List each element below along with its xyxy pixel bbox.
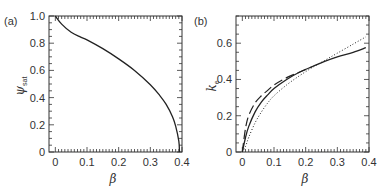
x-tick-label: 0.4 [174,156,189,168]
y-tick-label: 0.4 [30,92,45,104]
panel-a-tick-labels: 00.10.20.30.400.20.40.60.81.0 [30,10,190,168]
svg-text:ψsat: ψsat [13,77,28,96]
panel-a-frame [49,16,182,152]
y-tick-label: 0.6 [30,64,45,76]
panel-a-label: (a) [4,15,17,27]
y-tick-label: 0.2 [30,119,45,131]
panel-b-series [242,37,366,152]
svg-text:ke: ke [205,80,220,91]
y-tick-label: 0 [39,146,45,158]
series-solid-line [242,48,366,152]
y-label-sub: sat [21,77,28,86]
y-tick-label: 0.8 [30,37,45,49]
panel-b-ticks [236,16,369,152]
series-dashed-line [242,67,312,152]
panel-b-tick-labels: 00.10.20.30.400.20.40.6 [217,37,377,168]
panel-a-ticks [49,16,182,152]
panel-a-series [55,16,179,152]
series-sat-line [55,16,179,152]
y-tick-label: 0.2 [217,110,232,122]
y-label-sub: e [213,80,220,84]
x-tick-label: 0 [239,156,245,168]
x-tick-label: 0.4 [361,156,376,168]
panel-b-y-axis-label: ke [205,80,220,91]
y-tick-label: 1.0 [30,10,45,22]
panel-b-x-axis-label: β [301,172,309,186]
panel-a: (a) 00.10.20.30.400.20.40.60.81.0 β ψsat [4,10,190,186]
x-tick-label: 0.1 [266,156,281,168]
panel-b-label: (b) [194,15,207,27]
x-tick-label: 0.2 [298,156,313,168]
panel-b: (b) 00.10.20.30.400.20.40.6 β ke [194,15,377,186]
x-tick-label: 0.3 [330,156,345,168]
panel-b-frame [236,16,369,152]
figure: (a) 00.10.20.30.400.20.40.60.81.0 β ψsat… [0,0,385,192]
x-tick-label: 0.1 [79,156,94,168]
panel-a-y-axis-label: ψsat [13,77,28,96]
panel-a-x-axis-label: β [109,172,117,186]
y-tick-label: 0.6 [217,37,232,49]
x-tick-label: 0 [52,156,58,168]
x-tick-label: 0.2 [111,156,126,168]
x-tick-label: 0.3 [143,156,158,168]
y-label-main: k [205,84,219,91]
y-tick-label: 0 [226,146,232,158]
